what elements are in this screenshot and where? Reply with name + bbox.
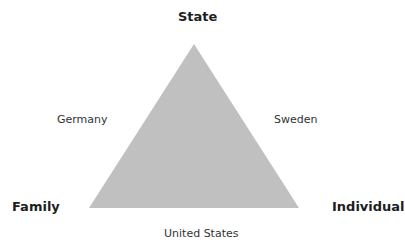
- side-label-united-states: United States: [164, 227, 239, 240]
- triangle-diagram: [0, 0, 405, 252]
- side-label-sweden: Sweden: [274, 113, 317, 126]
- vertex-label-family: Family: [12, 199, 60, 214]
- side-label-germany: Germany: [57, 113, 108, 126]
- vertex-label-individual: Individual: [332, 199, 405, 214]
- vertex-label-state: State: [178, 9, 217, 24]
- triangle-shape: [89, 44, 299, 208]
